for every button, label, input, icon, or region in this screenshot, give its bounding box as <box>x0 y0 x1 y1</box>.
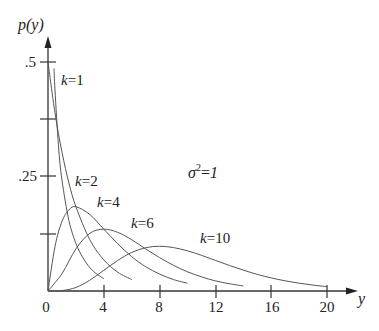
x-axis-label: y <box>356 290 366 308</box>
y-axis-arrow-icon <box>45 36 52 48</box>
y-axis-label: p(y) <box>17 16 44 34</box>
x-tick-label: 12 <box>209 299 224 315</box>
curve-label-k4: k=4 <box>97 194 120 210</box>
y-tick-label: .5 <box>25 54 36 70</box>
x-tick-label: 16 <box>265 299 281 315</box>
curve-label-k10: k=10 <box>200 230 230 246</box>
x-tick-label: 0 <box>42 299 50 315</box>
x-axis-arrow-icon <box>346 288 358 295</box>
curve-label-k2: k=2 <box>75 173 98 189</box>
x-tick-label: 8 <box>155 299 163 315</box>
curve-label-k1: k=1 <box>61 72 84 88</box>
variance-annotation: σ2=1 <box>188 162 218 181</box>
x-tick-label: 20 <box>320 299 335 315</box>
curve-label-k6: k=6 <box>131 215 154 231</box>
x-tick-label: 4 <box>99 299 107 315</box>
y-tick-label: .25 <box>18 168 37 184</box>
chi-square-density-chart: 0 4 8 12 16 20 .5 .25 p(y) y k=1 k=2 k=4… <box>0 0 379 331</box>
curve-k10 <box>48 246 327 291</box>
